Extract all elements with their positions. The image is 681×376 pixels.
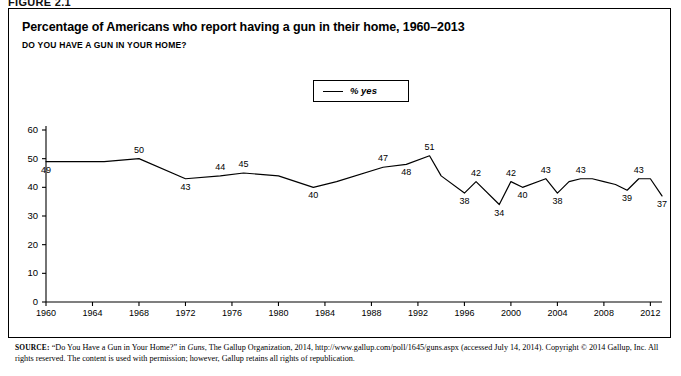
source-prefix: SOURCE:: [15, 343, 50, 352]
x-axis-tick-label: 2000: [491, 308, 531, 318]
data-point-value-label: 38: [454, 196, 474, 206]
data-point-value-label: 38: [547, 196, 567, 206]
data-point-value-label: 45: [234, 159, 254, 169]
y-axis-tick-label: 30: [16, 210, 38, 221]
x-axis-tick-label: 1964: [72, 308, 112, 318]
y-axis-tick-label: 40: [16, 181, 38, 192]
data-point-value-label: 43: [571, 165, 591, 175]
data-point-value-label: 37: [652, 199, 672, 209]
x-axis-tick-label: 1996: [444, 308, 484, 318]
y-axis-tick-label: 0: [16, 296, 38, 307]
y-axis-tick-label: 20: [16, 239, 38, 250]
data-point-value-label: 48: [396, 167, 416, 177]
y-axis-tick-label: 10: [16, 267, 38, 278]
data-point-value-label: 47: [373, 153, 393, 163]
data-point-value-label: 50: [129, 145, 149, 155]
data-point-value-label: 43: [536, 165, 556, 175]
data-point-value-label: 44: [210, 162, 230, 172]
data-point-value-label: 49: [36, 165, 56, 175]
source-text-1: “Do You Have a Gun in Your Home?” in: [50, 343, 188, 352]
x-axis-tick-label: 1984: [305, 308, 345, 318]
source-note: SOURCE: “Do You Have a Gun in Your Home?…: [15, 343, 667, 364]
figure-page: FIGURE 2.1 Percentage of Americans who r…: [0, 0, 681, 376]
series-line-percent-yes: [46, 156, 662, 205]
data-point-value-label: 43: [629, 165, 649, 175]
data-point-value-label: 40: [303, 190, 323, 200]
x-axis-tick-label: 1992: [398, 308, 438, 318]
source-italic-guns: Guns: [187, 343, 204, 352]
x-axis-tick-label: 2008: [584, 308, 624, 318]
data-point-value-label: 42: [466, 168, 486, 178]
data-point-value-label: 34: [489, 208, 509, 218]
chart-plot-area: [0, 0, 681, 376]
x-axis-tick-label: 2004: [537, 308, 577, 318]
x-axis-tick-label: 1972: [165, 308, 205, 318]
x-axis-tick-label: 1988: [351, 308, 391, 318]
y-axis-tick-label: 50: [16, 153, 38, 164]
data-point-value-label: 51: [420, 142, 440, 152]
x-axis-tick-label: 1980: [258, 308, 298, 318]
x-axis-tick-label: 1960: [26, 308, 66, 318]
data-point-value-label: 40: [513, 190, 533, 200]
data-point-value-label: 39: [617, 193, 637, 203]
y-axis-tick-label: 60: [16, 124, 38, 135]
x-axis-tick-label: 1976: [212, 308, 252, 318]
x-axis-tick-label: 2012: [630, 308, 670, 318]
data-point-value-label: 43: [175, 182, 195, 192]
data-point-value-label: 42: [501, 168, 521, 178]
x-axis-tick-label: 1968: [119, 308, 159, 318]
